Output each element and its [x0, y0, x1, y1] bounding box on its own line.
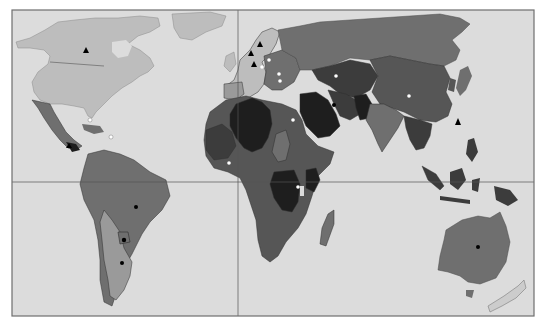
marker-black-dot	[476, 245, 480, 249]
marker-white-dot	[407, 94, 411, 98]
marker-white-dot	[267, 58, 271, 62]
marker-white-dot	[227, 161, 231, 165]
marker-black-dot	[122, 238, 126, 242]
marker-white-dot	[296, 185, 300, 189]
world-map	[0, 0, 547, 325]
marker-black-dot	[134, 205, 138, 209]
marker-white-dot	[278, 79, 282, 83]
marker-white-dot	[277, 72, 281, 76]
marker-white-dot	[260, 65, 264, 69]
marker-white-dot	[109, 135, 113, 139]
lake-victoria	[300, 186, 304, 196]
marker-white-dot	[291, 118, 295, 122]
marker-white-dot	[88, 118, 92, 122]
marker-white-dot	[334, 74, 338, 78]
marker-black-dot	[332, 103, 336, 107]
marker-black-dot	[120, 261, 124, 265]
world-map-svg	[0, 0, 547, 325]
